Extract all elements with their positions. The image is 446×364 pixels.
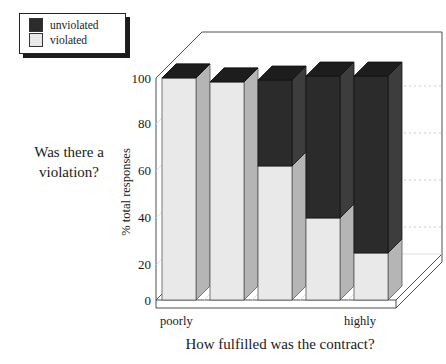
y-axis-ticks: 0 20 40 60 80 100	[132, 71, 152, 308]
bar-group-2	[210, 68, 258, 300]
bar-2-front-violated	[210, 82, 244, 300]
bar-3-front-unviolated	[258, 80, 292, 166]
bar-5-front-unviolated	[354, 76, 388, 253]
bar-group-4	[306, 62, 354, 300]
bar-group-5	[354, 62, 402, 300]
bar-4-side-unviolated	[340, 62, 354, 218]
y-axis-title: % total responses	[119, 148, 133, 236]
bar-group-3	[258, 66, 306, 300]
factor-question-line2: violation?	[8, 162, 130, 182]
chart-gridlines	[404, 86, 442, 227]
chart-svg: 0 20 40 60 80 100 % total responses poor…	[118, 10, 446, 354]
chart-legend: unviolated violated	[19, 13, 130, 58]
factor-question-label: Was there a violation?	[8, 142, 130, 182]
legend-item-unviolated: unviolated	[29, 18, 99, 32]
bar-4-front-unviolated	[306, 76, 340, 218]
y-tick-40: 40	[138, 210, 151, 225]
x-tick-poorly: poorly	[160, 314, 193, 328]
bar-3-side-unviolated	[292, 66, 306, 166]
chart-page: unviolated violated Was there a violatio…	[0, 0, 446, 364]
bar-4-side-violated	[340, 204, 354, 300]
x-tick-highly: highly	[344, 314, 377, 328]
factor-question-line1: Was there a	[8, 142, 130, 162]
y-tick-20: 20	[138, 257, 151, 272]
legend-item-violated: violated	[29, 33, 87, 47]
y-tick-60: 60	[138, 163, 151, 178]
legend-swatch-icon-violated	[29, 33, 43, 47]
stacked-bar-chart-3d: 0 20 40 60 80 100 % total responses poor…	[118, 10, 446, 354]
y-tick-0: 0	[145, 293, 152, 308]
bar-3-side-violated	[292, 152, 306, 300]
legend-label-violated: violated	[50, 34, 87, 46]
legend-label-unviolated: unviolated	[50, 19, 99, 31]
bar-5-side-unviolated	[388, 62, 402, 253]
bar-group-1	[162, 64, 210, 300]
bar-1-front-violated	[162, 78, 196, 300]
bar-3-front-violated	[258, 166, 292, 300]
legend-swatch-icon-unviolated	[29, 18, 43, 32]
y-tick-80: 80	[138, 116, 151, 131]
bar-5-front-violated	[354, 253, 388, 300]
bar-4-front-violated	[306, 218, 340, 300]
bar-1-side-violated	[196, 64, 210, 300]
bar-2-side-violated	[244, 68, 258, 300]
y-tick-100: 100	[132, 71, 152, 86]
x-axis-caption: How fulfilled was the contract?	[130, 336, 430, 353]
